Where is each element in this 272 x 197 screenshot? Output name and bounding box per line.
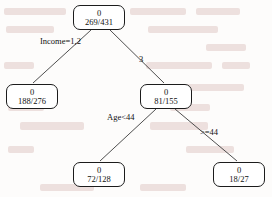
- decision-tree-diagram: 0 269/431 0 188/276 0 81/155 0 72/128 0 …: [0, 0, 272, 197]
- node-class-label: 0: [97, 9, 101, 18]
- tree-node-root[interactable]: 0 269/431: [73, 5, 125, 30]
- node-class-label: 0: [237, 166, 241, 175]
- node-class-label: 0: [164, 88, 168, 97]
- node-count-label: 188/276: [18, 97, 46, 106]
- tree-node-bottom-left-leaf[interactable]: 0 72/128: [73, 162, 125, 187]
- edge-label-income: Income=1,2: [40, 36, 81, 46]
- tree-node-left-leaf[interactable]: 0 188/276: [6, 84, 58, 109]
- node-count-label: 18/27: [229, 175, 248, 184]
- node-count-label: 81/155: [154, 97, 178, 106]
- node-count-label: 269/431: [85, 18, 113, 27]
- node-class-label: 0: [97, 166, 101, 175]
- tree-node-right-internal[interactable]: 0 81/155: [140, 84, 192, 109]
- edge-root-right: [110, 30, 164, 83]
- tree-node-bottom-right-leaf[interactable]: 0 18/27: [213, 162, 265, 187]
- edge-label-income-three: 3: [139, 54, 143, 64]
- edge-label-age-ge-44: >=44: [200, 127, 218, 137]
- node-class-label: 0: [30, 88, 34, 97]
- node-count-label: 72/128: [87, 175, 111, 184]
- edge-label-age-lt-44: Age<44: [107, 112, 134, 122]
